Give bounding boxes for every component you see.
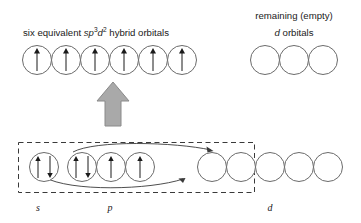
promotion-curve-upper <box>73 144 211 153</box>
hybrid-orbital-4 <box>110 46 139 75</box>
ground-state-p-orbital-1 <box>68 153 97 182</box>
orbital-circle <box>30 153 59 182</box>
remaining-d-label-rest: orbitals <box>280 27 314 38</box>
remaining-d-orbital-1 <box>251 46 280 75</box>
remaining-d-orbital-row <box>251 46 338 75</box>
subshell-label-s: s <box>36 202 40 213</box>
hybrid-label-suffix: hybrid orbitals <box>107 27 170 38</box>
ground-state-d-orbital-row <box>198 153 343 182</box>
promotion-curve-upper-arrowhead <box>207 147 214 153</box>
hybrid-orbitals-label: six equivalent sp3d2 hybrid orbitals <box>23 26 169 38</box>
orbital-circle <box>68 153 97 182</box>
hybridization-up-arrow <box>97 82 129 126</box>
ground-state-p-orbital-row <box>68 153 155 182</box>
hybrid-label-prefix: six equivalent <box>23 27 84 38</box>
orbital-hybridization-diagram: six equivalent sp3d2 hybrid orbitals rem… <box>0 0 361 223</box>
ground-state-p-orbital-3 <box>126 153 155 182</box>
remaining-d-orbital-3 <box>309 46 338 75</box>
remaining-d-label-line1: remaining (empty) <box>255 10 332 21</box>
ground-state-d-orbital-3 <box>256 153 285 182</box>
ground-state-d-orbital-1 <box>198 153 227 182</box>
ground-state-p-orbital-2 <box>97 153 126 182</box>
hybrid-orbital-1 <box>23 46 52 75</box>
hybrid-orbital-5 <box>139 46 168 75</box>
remaining-d-label-line2: d orbitals <box>275 27 314 38</box>
ground-state-d-orbital-4 <box>285 153 314 182</box>
hybrid-orbital-6 <box>168 46 197 75</box>
subshell-label-d: d <box>268 202 274 213</box>
ground-state-d-orbital-5 <box>314 153 343 182</box>
ground-state-s-orbital <box>30 153 59 182</box>
hybrid-orbital-3 <box>81 46 110 75</box>
ground-state-d-orbital-2 <box>227 153 256 182</box>
hybrid-orbital-row <box>23 46 197 75</box>
diagram-canvas: six equivalent sp3d2 hybrid orbitals rem… <box>0 0 361 223</box>
remaining-d-orbital-2 <box>280 46 309 75</box>
hybrid-orbital-2 <box>52 46 81 75</box>
subshell-label-p: p <box>107 202 113 213</box>
